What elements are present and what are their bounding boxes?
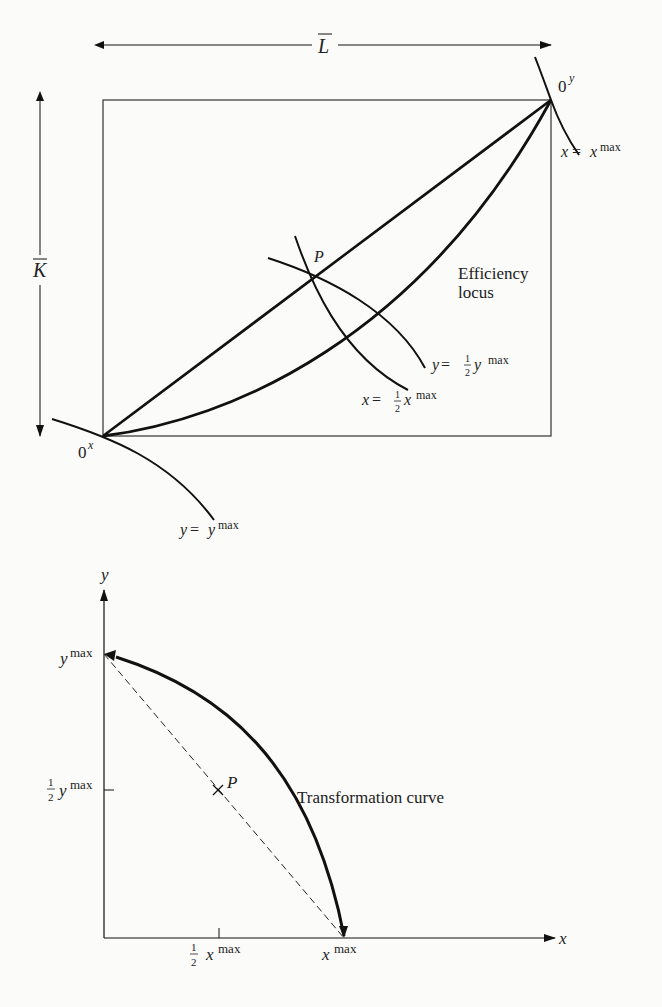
svg-text:=: =: [572, 143, 581, 160]
svg-text:max: max: [218, 518, 239, 532]
svg-text:x: x: [560, 143, 568, 160]
svg-text:y: y: [57, 781, 67, 800]
y-max-isoquant-label: y = y max: [178, 518, 239, 539]
width-label: L: [317, 35, 329, 57]
x-axis-label: x: [558, 929, 567, 948]
x-max-isoquant-label: x = x max: [560, 140, 621, 160]
svg-text:x: x: [589, 143, 597, 160]
svg-text:max: max: [600, 140, 621, 154]
svg-text:2: 2: [465, 367, 470, 378]
svg-text:max: max: [488, 353, 509, 367]
height-dimension-arrow: K: [32, 100, 48, 436]
point-p-label: P: [226, 773, 237, 792]
diagram-canvas: L K 0 x 0 y P: [0, 0, 662, 1007]
half-y-max-isoquant-label: y = 1 2 y max: [430, 353, 509, 378]
svg-text:x: x: [205, 945, 214, 964]
svg-text:locus: locus: [458, 283, 494, 302]
svg-text:x: x: [87, 438, 94, 452]
y-axis-label: y: [99, 565, 109, 584]
svg-text:y: y: [472, 356, 482, 374]
half-x-max-isoquant-label: x = 1 2 x max: [361, 388, 437, 414]
x-max-label: x max: [321, 941, 357, 964]
svg-text:Efficiency: Efficiency: [458, 264, 529, 283]
svg-text:2: 2: [395, 403, 400, 414]
svg-text:max: max: [70, 777, 93, 792]
svg-text:x: x: [361, 391, 369, 408]
svg-text:1: 1: [395, 389, 400, 400]
svg-text:max: max: [218, 941, 241, 956]
svg-text:y: y: [178, 521, 188, 539]
origin-y-label: 0 y: [558, 71, 575, 96]
edgeworth-box-diagram: L K 0 x 0 y P: [32, 34, 621, 539]
isoquant-half-y-max: [268, 258, 425, 368]
transformation-curve-label: Transformation curve: [297, 788, 444, 807]
y-max-label: y max: [58, 645, 93, 668]
point-p-marker: [213, 785, 223, 795]
efficiency-locus-label: Efficiency locus: [458, 264, 529, 302]
svg-text:y: y: [568, 71, 575, 85]
svg-text:x: x: [321, 945, 330, 964]
height-label: K: [32, 259, 48, 281]
svg-text:0: 0: [78, 443, 87, 462]
svg-text:=: =: [372, 391, 381, 408]
svg-text:y: y: [430, 356, 440, 374]
svg-text:max: max: [70, 645, 93, 660]
svg-text:2: 2: [48, 791, 54, 803]
half-x-max-label: 1 2 x max: [190, 941, 241, 968]
svg-text:max: max: [416, 388, 437, 402]
svg-text:y: y: [58, 649, 68, 668]
isoquant-half-x-max: [295, 236, 408, 390]
svg-text:2: 2: [191, 956, 197, 968]
width-dimension-arrow: L: [103, 34, 551, 57]
svg-text:=: =: [441, 356, 450, 373]
svg-text:0: 0: [558, 77, 567, 96]
curve-arrowhead-bottom: [339, 926, 348, 938]
svg-text:max: max: [334, 941, 357, 956]
origin-x-label: 0 x: [78, 438, 94, 462]
svg-text:1: 1: [465, 353, 470, 364]
transformation-curve-diagram: y x P y max 1 2 y max 1: [47, 565, 567, 968]
svg-text:y: y: [206, 521, 216, 539]
svg-text:1: 1: [191, 941, 197, 953]
svg-text:x: x: [403, 391, 411, 408]
point-p-label: P: [313, 248, 324, 265]
svg-text:1: 1: [48, 776, 54, 788]
half-y-max-label: 1 2 y max: [47, 776, 93, 803]
svg-text:=: =: [190, 521, 199, 538]
isoquant-y-max: [52, 419, 214, 520]
